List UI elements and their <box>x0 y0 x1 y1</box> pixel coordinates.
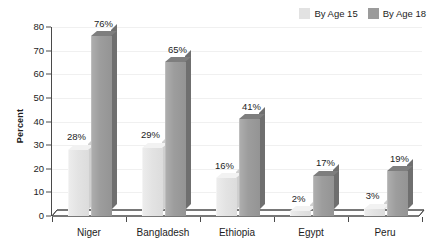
plot-area: 28%76%29%65%16%41%2%17%3%19% <box>52 27 422 216</box>
y-axis-tick-label: 40 <box>20 117 44 127</box>
bar-bangladesh-series-1 <box>142 148 162 217</box>
x-axis-label-egypt: Egypt <box>298 228 324 238</box>
legend-item-by-age-15: By Age 15 <box>299 8 357 19</box>
legend-item-by-age-18: By Age 18 <box>368 8 426 19</box>
bar-value-label: 3% <box>356 191 390 201</box>
chart-legend: By Age 15 By Age 18 <box>299 8 426 19</box>
bar-egypt-series-2 <box>313 176 333 216</box>
bar-front-face <box>239 119 260 216</box>
bar-front-face <box>165 62 186 216</box>
x-axis-tick-mark <box>200 217 201 222</box>
bar-value-label: 29% <box>134 130 168 140</box>
bar-group: 3%19% <box>348 27 422 216</box>
legend-label: By Age 18 <box>383 9 426 19</box>
bar-value-label: 65% <box>161 45 195 55</box>
bar-front-face <box>387 171 408 216</box>
x-axis-tick-mark <box>274 217 275 222</box>
bar-front-face <box>216 178 237 216</box>
x-axis-tick-mark <box>52 217 53 222</box>
x-axis-tick-mark <box>348 217 349 222</box>
bar-value-label: 2% <box>282 194 316 204</box>
bar-value-label: 28% <box>60 132 94 142</box>
bar-ethiopia-series-1 <box>216 178 236 216</box>
x-axis-tick-mark <box>422 217 423 222</box>
bar-front-face <box>364 209 385 216</box>
bar-value-label: 76% <box>87 19 121 29</box>
bar-peru-series-2 <box>387 171 407 216</box>
y-axis-tick-label: 20 <box>20 164 44 174</box>
bar-front-face <box>68 150 89 216</box>
x-axis-label-niger: Niger <box>77 228 101 238</box>
legend-label: By Age 15 <box>314 9 357 19</box>
bar-group: 29%65% <box>126 27 200 216</box>
bar-front-face <box>290 211 311 216</box>
bar-ethiopia-series-2 <box>239 119 259 216</box>
bar-bangladesh-series-2 <box>165 62 185 216</box>
y-axis-tick-label: 50 <box>20 93 44 103</box>
bar-front-face <box>142 148 163 217</box>
bar-niger-series-2 <box>91 36 111 216</box>
y-axis-tick-label: 70 <box>20 46 44 56</box>
bar-egypt-series-1 <box>290 211 310 216</box>
bar-niger-series-1 <box>68 150 88 216</box>
bar-front-face <box>91 36 112 216</box>
x-axis-label-bangladesh: Bangladesh <box>137 228 190 238</box>
y-axis-tick-label: 30 <box>20 140 44 150</box>
x-axis-tick-mark <box>126 217 127 222</box>
bar-chart: By Age 15 By Age 18 Percent 010203040506… <box>0 0 432 251</box>
legend-swatch-icon <box>368 8 379 19</box>
y-axis-tick-label: 60 <box>20 70 44 80</box>
legend-swatch-icon <box>299 8 310 19</box>
bar-front-face <box>313 176 334 216</box>
bar-group: 2%17% <box>274 27 348 216</box>
y-axis-tick-label: 0 <box>20 211 44 221</box>
bar-value-label: 19% <box>383 154 417 164</box>
bar-value-label: 41% <box>235 102 269 112</box>
bar-groups: 28%76%29%65%16%41%2%17%3%19% <box>52 27 422 216</box>
bar-peru-series-1 <box>364 209 384 216</box>
bar-value-label: 17% <box>309 158 343 168</box>
bar-group: 28%76% <box>52 27 126 216</box>
x-axis-label-peru: Peru <box>374 228 395 238</box>
y-axis-tick-label: 10 <box>20 188 44 198</box>
bar-group: 16%41% <box>200 27 274 216</box>
x-axis-label-ethiopia: Ethiopia <box>219 228 255 238</box>
y-axis-tick-label: 80 <box>20 22 44 32</box>
bar-value-label: 16% <box>208 161 242 171</box>
